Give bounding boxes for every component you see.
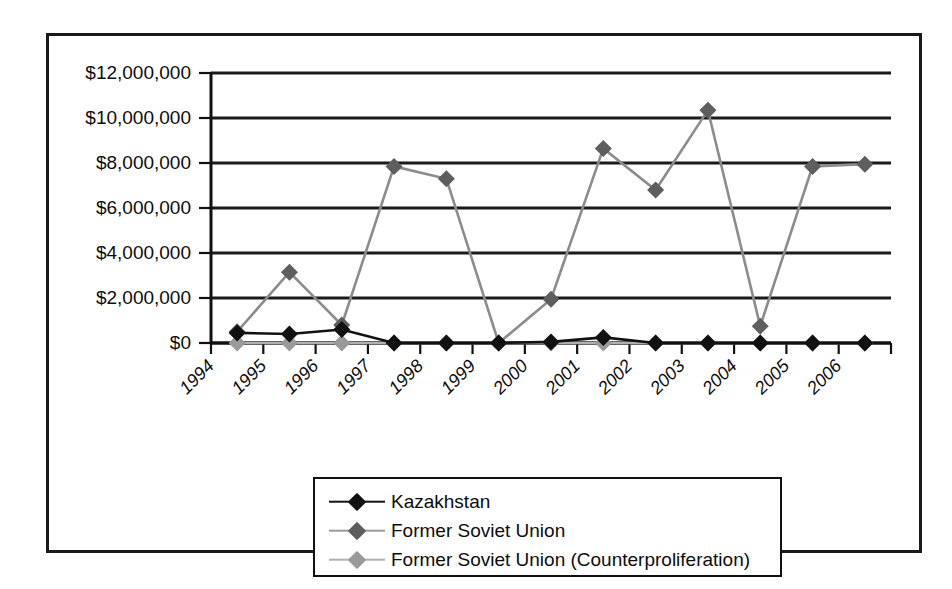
x-tick-label: 1997 (332, 355, 375, 398)
x-tick-label: 2002 (593, 356, 636, 399)
data-point-marker (752, 318, 769, 335)
series-former-soviet-union (229, 102, 874, 352)
legend-item-former-soviet-union-counterproliferation: Former Soviet Union (Counterproliferatio… (329, 545, 780, 574)
data-point-marker (699, 102, 716, 119)
legend-label-kazakhstan: Kazakhstan (391, 492, 490, 511)
data-point-marker (856, 335, 873, 352)
data-series (229, 102, 874, 352)
legend-label-former-soviet-union: Former Soviet Union (391, 521, 565, 540)
x-axis-labels: 1994199519961997199819992000200120022003… (175, 355, 846, 399)
x-tick-label: 2003 (645, 356, 688, 399)
y-tick-label: $0 (170, 332, 191, 353)
data-point-marker (856, 156, 873, 173)
data-point-marker (281, 326, 298, 343)
x-tick-label: 1999 (437, 356, 479, 398)
y-tick-label: $8,000,000 (96, 152, 191, 173)
y-tick-label: $2,000,000 (96, 287, 191, 308)
data-point-marker (438, 170, 455, 187)
y-tick-label: $6,000,000 (96, 197, 191, 218)
x-tick-label: 1996 (280, 355, 323, 398)
legend-marker-former-soviet-union-counterproliferation (329, 549, 385, 571)
legend-marker-kazakhstan (329, 491, 385, 513)
data-point-marker (543, 333, 560, 350)
data-point-marker (699, 335, 716, 352)
data-point-marker (386, 158, 403, 175)
data-point-marker (752, 335, 769, 352)
data-point-marker (386, 335, 403, 352)
y-tick-label: $12,000,000 (85, 62, 191, 83)
data-point-marker (804, 335, 821, 352)
x-tick-label: 2004 (698, 356, 741, 399)
legend-item-kazakhstan: Kazakhstan (329, 487, 780, 516)
data-point-marker (804, 158, 821, 175)
chart-legend: Kazakhstan Former Soviet Union Former So… (313, 477, 782, 577)
x-tick-label: 2001 (541, 356, 584, 399)
y-tick-label: $4,000,000 (96, 242, 191, 263)
y-axis-labels: $0$2,000,000$4,000,000$6,000,000$8,000,0… (85, 62, 191, 353)
x-tick-label: 2000 (489, 356, 532, 399)
x-tick-label: 1998 (385, 356, 427, 398)
series-line (237, 110, 865, 343)
y-tick-label: $10,000,000 (85, 107, 191, 128)
chart-frame: $0$2,000,000$4,000,000$6,000,000$8,000,0… (46, 33, 922, 553)
data-point-marker (647, 335, 664, 352)
x-tick-label: 1995 (228, 355, 271, 398)
legend-item-former-soviet-union: Former Soviet Union (329, 516, 780, 545)
chart-page: $0$2,000,000$4,000,000$6,000,000$8,000,0… (0, 0, 952, 589)
y-axis-ticks (199, 73, 211, 343)
legend-marker-former-soviet-union (329, 520, 385, 542)
x-tick-label: 2005 (750, 355, 794, 399)
x-tick-label: 1994 (175, 356, 217, 398)
x-tick-label: 2006 (802, 355, 846, 399)
series-kazakhstan (229, 321, 874, 352)
legend-label-former-soviet-union-counterproliferation: Former Soviet Union (Counterproliferatio… (391, 550, 750, 569)
data-point-marker (438, 335, 455, 352)
